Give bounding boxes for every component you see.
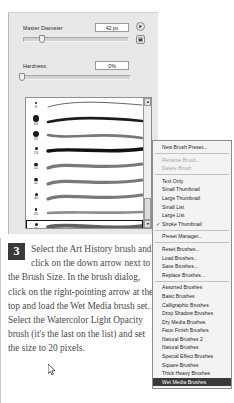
hardness-slider-thumb[interactable] (19, 73, 25, 81)
menu-item: Delete Brush (153, 164, 231, 173)
brush-size-label: 45 (34, 212, 38, 216)
hardness-value[interactable]: 0% (95, 61, 129, 70)
brush-list-item[interactable]: 40 (26, 189, 143, 204)
brush-size-swatch: 23 (26, 147, 46, 155)
menu-item[interactable]: Reset Brushes... (153, 245, 231, 254)
checkmark-icon: ✓ (156, 220, 160, 229)
brush-list-item[interactable]: 42 (26, 174, 143, 189)
menu-item[interactable]: Assorted Brushes (153, 283, 231, 292)
brush-stroke-preview (46, 205, 143, 219)
menu-separator (155, 281, 229, 282)
brush-size-swatch: 41 (26, 131, 46, 142)
brush-size-swatch: 45 (26, 208, 46, 215)
menu-item-label: Text Only (162, 178, 183, 184)
brush-size-swatch: 8 (26, 102, 46, 109)
brush-list-item[interactable]: 63 (26, 113, 143, 128)
master-diameter-slider-thumb[interactable] (39, 35, 45, 43)
brush-list-item[interactable]: 45 (26, 204, 143, 219)
menu-item-label: Preset Manager... (162, 233, 202, 239)
menu-item[interactable]: Load Brushes... (153, 254, 231, 263)
brush-list-item[interactable]: 8 (26, 98, 143, 113)
menu-item-label: Load Brushes... (162, 255, 198, 261)
hardness-row: Hardness: 0% (15, 61, 158, 83)
brush-context-menu[interactable]: New Brush Preset...Rename Brush...Delete… (152, 140, 232, 389)
menu-item-label: Dry Media Brushes (162, 319, 205, 325)
scrollbar-down-button[interactable] (144, 220, 151, 228)
brush-preset-list[interactable]: 86341234242404543 (25, 97, 152, 229)
menu-separator (155, 174, 229, 175)
menu-item[interactable]: Thick Heavy Brushes (153, 369, 231, 378)
brush-size-swatch: 40 (26, 193, 46, 201)
menu-item-label: Large List (162, 212, 184, 218)
menu-separator (155, 242, 229, 243)
menu-item[interactable]: Preset Manager... (153, 232, 231, 241)
panel-menu-icon (138, 37, 143, 42)
menu-item[interactable]: Dry Media Brushes (153, 318, 231, 327)
menu-item[interactable]: Small List (153, 203, 231, 212)
menu-item[interactable]: Drop Shadow Brushes (153, 309, 231, 318)
brush-size-label: 42 (34, 181, 38, 185)
brush-list-item[interactable]: 42 (26, 159, 143, 174)
menu-item-label: Basic Brushes (162, 293, 195, 299)
brush-list-item[interactable]: 41 (26, 128, 143, 143)
menu-item-label: Special Effect Brushes (162, 353, 213, 359)
menu-item-label: New Brush Preset... (162, 144, 207, 150)
menu-item-label: Delete Brush (162, 165, 191, 171)
left-divider-rule (0, 238, 1, 403)
menu-item-label: Large Thumbnail (162, 195, 200, 201)
instruction-paragraph: 3 Select the Art History brush and click… (8, 242, 156, 356)
menu-item[interactable]: Large Thumbnail (153, 194, 231, 203)
brush-size-swatch: 42 (26, 163, 46, 171)
menu-item[interactable]: Small Thumbnail (153, 185, 231, 194)
brush-size-label: 23 (34, 151, 38, 155)
menu-item[interactable]: Basic Brushes (153, 292, 231, 301)
brush-list-scrollbar[interactable] (143, 98, 151, 228)
panel-menu-arrow-button[interactable] (136, 22, 145, 31)
brush-list-item[interactable]: 43 (26, 220, 143, 230)
menu-item[interactable]: Replace Brushes... (153, 271, 231, 280)
menu-item[interactable]: Special Effect Brushes (153, 352, 231, 361)
menu-item[interactable]: Square Brushes (153, 361, 231, 370)
menu-item[interactable]: Calligraphic Brushes (153, 301, 231, 310)
scrollbar-up-button[interactable] (144, 98, 151, 106)
menu-item[interactable]: Save Brushes... (153, 262, 231, 271)
scroll-down-arrow-icon (146, 222, 150, 226)
panel-options-button[interactable] (136, 35, 145, 44)
brush-size-label: 63 (34, 122, 38, 126)
master-diameter-label: Master Diameter (23, 25, 63, 32)
menu-item[interactable]: Faux Finish Brushes (153, 326, 231, 335)
menu-item[interactable]: Natural Brushes 2 (153, 335, 231, 344)
brush-size-label: 42 (34, 166, 38, 170)
brush-size-label: 41 (34, 137, 38, 141)
brush-panel-screenshot: Master Diameter 42 px Hardness: (8, 12, 158, 234)
menu-item[interactable]: Wet Media Brushes (153, 378, 231, 387)
menu-item-label: Replace Brushes... (162, 272, 205, 278)
master-diameter-value[interactable]: 42 px (95, 23, 129, 32)
brush-size-swatch: 63 (26, 115, 46, 126)
menu-item-label: Rename Brush... (162, 157, 200, 163)
menu-item-label: Wet Media Brushes (162, 379, 206, 385)
brush-tip-dot-icon (33, 115, 40, 122)
menu-item-label: Thick Heavy Brushes (162, 370, 210, 376)
menu-separator (155, 230, 229, 231)
brush-stroke-preview (46, 99, 143, 113)
scrollbar-thumb[interactable] (144, 198, 151, 220)
brush-stroke-preview (46, 175, 143, 189)
menu-item[interactable]: Natural Brushes (153, 343, 231, 352)
brush-list-item[interactable]: 23 (26, 144, 143, 159)
menu-item: Rename Brush... (153, 156, 231, 165)
menu-item[interactable]: Text Only (153, 177, 231, 186)
brush-stroke-preview (46, 159, 143, 173)
menu-item-label: Calligraphic Brushes (162, 302, 209, 308)
brush-stroke-preview (46, 129, 143, 143)
menu-item[interactable]: Large List (153, 211, 231, 220)
brush-tip-dot-icon (33, 131, 39, 137)
page-root: Master Diameter 42 px Hardness: (0, 0, 234, 403)
menu-item[interactable]: New Brush Preset... (153, 143, 231, 152)
menu-item-label: Square Brushes (162, 362, 199, 368)
menu-item[interactable]: ✓Stroke Thumbnail (153, 220, 231, 229)
brush-size-label: 40 (34, 196, 38, 200)
step-number-badge: 3 (8, 243, 25, 260)
right-pointing-arrow-icon (138, 24, 143, 29)
hardness-slider-track[interactable] (21, 75, 131, 80)
